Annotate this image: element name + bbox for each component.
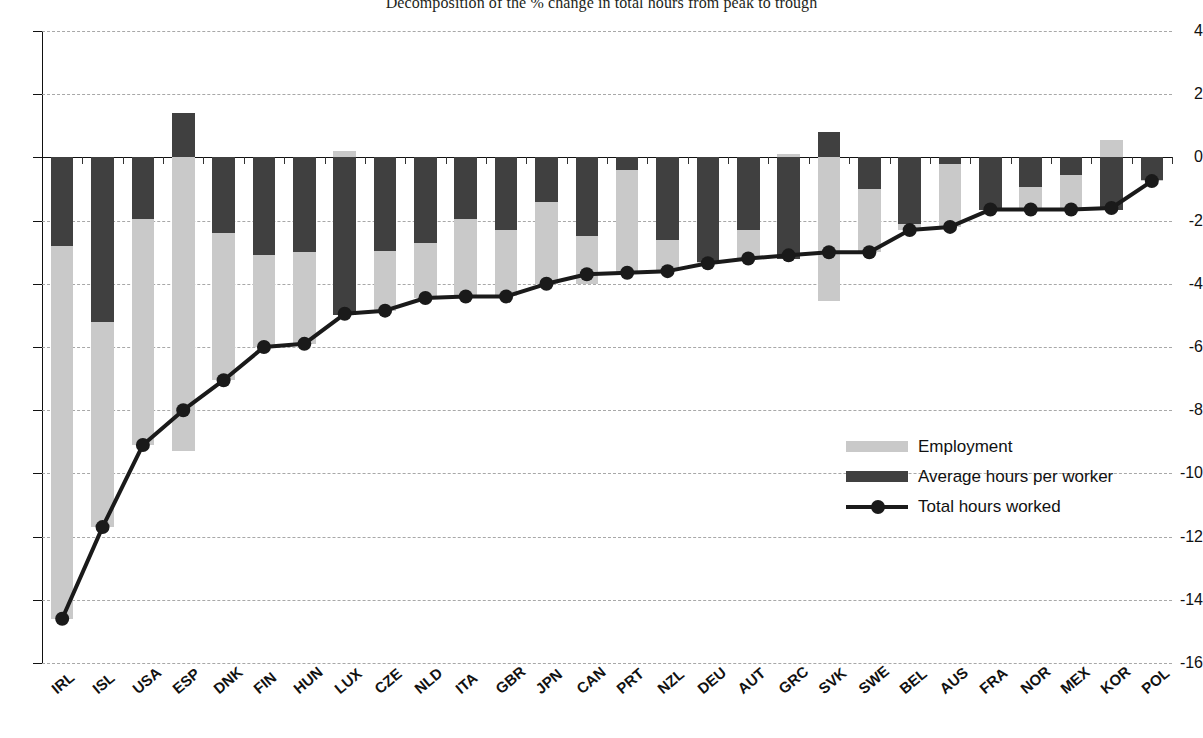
x-axis-label-prt: PRT (613, 665, 647, 697)
total-hours-marker[interactable] (822, 245, 836, 259)
total-hours-marker[interactable] (983, 203, 997, 217)
total-hours-marker[interactable] (903, 223, 917, 237)
y-axis-tick-label: -6 (1167, 338, 1203, 356)
y-axis-tick-label: -12 (1167, 528, 1203, 546)
gridline (42, 663, 1172, 664)
legend-item-average-hours: Average hours per worker (846, 462, 1186, 492)
total-hours-marker[interactable] (943, 220, 957, 234)
legend-swatch-employment-icon (846, 441, 908, 452)
y-axis-tick-label: -16 (1167, 654, 1203, 672)
total-hours-marker[interactable] (176, 403, 190, 417)
y-axis-tick-label: -2 (1167, 212, 1203, 230)
legend-swatch-average-hours-icon (846, 471, 908, 482)
x-axis-label-esp: ESP (169, 665, 203, 697)
y-axis-tick-mark (33, 347, 42, 348)
y-axis-tick-mark (33, 537, 42, 538)
total-hours-marker[interactable] (459, 289, 473, 303)
x-axis-label-nor: NOR (1017, 663, 1053, 697)
total-hours-marker[interactable] (55, 612, 69, 626)
x-axis-label-aus: AUS (936, 664, 971, 697)
x-axis-label-fra: FRA (976, 664, 1011, 697)
total-hours-marker[interactable] (96, 520, 110, 534)
total-hours-line-series (42, 31, 1172, 663)
x-axis-label-gbr: GBR (492, 663, 528, 697)
x-axis-label-svk: SVK (815, 664, 850, 697)
x-axis-label-can: CAN (573, 663, 609, 697)
y-axis-tick-mark (33, 157, 42, 158)
x-axis-label-aut: AUT (734, 664, 769, 697)
legend-marker-dot-icon (871, 500, 885, 514)
y-axis-tick-mark (33, 221, 42, 222)
total-hours-marker[interactable] (741, 252, 755, 266)
x-axis-label-isl: ISL (89, 669, 118, 697)
y-axis-tick-label: -4 (1167, 275, 1203, 293)
total-hours-marker[interactable] (701, 256, 715, 270)
y-axis-tick-label: 2 (1167, 85, 1203, 103)
legend-label-total-hours: Total hours worked (918, 492, 1061, 522)
total-hours-marker[interactable] (297, 337, 311, 351)
total-hours-marker[interactable] (1145, 174, 1159, 188)
total-hours-marker[interactable] (136, 438, 150, 452)
x-axis-label-swe: SWE (855, 662, 892, 697)
y-axis-tick-label: 0 (1167, 148, 1203, 166)
y-axis-tick-mark (33, 94, 42, 95)
total-hours-marker[interactable] (862, 245, 876, 259)
total-hours-marker[interactable] (499, 289, 513, 303)
y-axis-tick-label: 4 (1167, 22, 1203, 40)
x-axis-label-lux: LUX (331, 665, 365, 697)
legend-label-average-hours: Average hours per worker (918, 462, 1113, 492)
total-hours-marker[interactable] (661, 264, 675, 278)
chart-title: Decomposition of the % change in total h… (0, 0, 1203, 12)
x-axis-label-nld: NLD (411, 664, 446, 697)
total-hours-marker[interactable] (580, 267, 594, 281)
x-axis-label-usa: USA (129, 664, 164, 697)
y-axis-tick-mark (33, 663, 42, 664)
total-hours-marker[interactable] (539, 277, 553, 291)
x-axis-label-dnk: DNK (210, 663, 246, 697)
total-hours-marker[interactable] (217, 373, 231, 387)
y-axis-tick-label: -14 (1167, 591, 1203, 609)
x-axis-label-fin: FIN (250, 668, 279, 697)
total-hours-marker[interactable] (1024, 203, 1038, 217)
x-axis-label-deu: DEU (694, 664, 729, 697)
chart-legend: Employment Average hours per worker Tota… (846, 432, 1186, 522)
total-hours-line (62, 181, 1152, 619)
total-hours-marker[interactable] (418, 291, 432, 305)
x-axis-label-jpn: JPN (532, 665, 565, 697)
total-hours-marker[interactable] (378, 304, 392, 318)
y-axis-tick-mark (33, 284, 42, 285)
y-axis-tick-mark (33, 473, 42, 474)
plot-area (42, 31, 1172, 663)
chart-root: Decomposition of the % change in total h… (0, 0, 1203, 738)
total-hours-marker[interactable] (620, 266, 634, 280)
total-hours-marker[interactable] (338, 307, 352, 321)
x-axis-label-nzl: NZL (654, 665, 687, 697)
total-hours-marker[interactable] (1064, 203, 1078, 217)
total-hours-marker[interactable] (257, 340, 271, 354)
total-hours-marker[interactable] (782, 248, 796, 262)
legend-label-employment: Employment (918, 432, 1012, 462)
x-axis-label-irl: IRL (48, 668, 77, 697)
x-axis-label-cze: CZE (371, 665, 405, 697)
y-axis-tick-label: -8 (1167, 401, 1203, 419)
x-axis-label-bel: BEL (896, 665, 930, 697)
x-axis-label-grc: GRC (775, 663, 811, 697)
total-hours-marker[interactable] (1104, 201, 1118, 215)
legend-item-employment: Employment (846, 432, 1186, 462)
y-axis-tick-mark (33, 600, 42, 601)
x-axis-label-mex: MEX (1057, 663, 1093, 697)
y-axis-tick-mark (33, 31, 42, 32)
x-axis-label-hun: HUN (290, 663, 326, 697)
y-axis-tick-mark (33, 410, 42, 411)
legend-item-total-hours: Total hours worked (846, 492, 1186, 522)
x-axis-label-ita: ITA (452, 669, 481, 697)
x-axis-label-kor: KOR (1097, 663, 1133, 697)
